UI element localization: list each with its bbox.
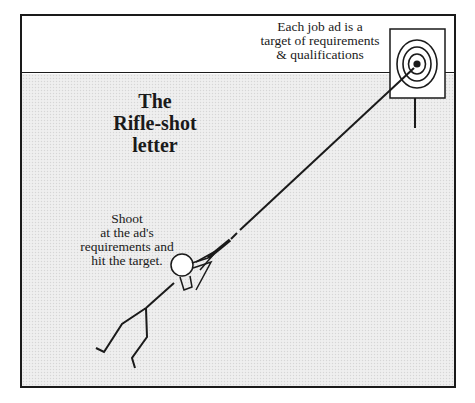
bullet-trajectory-line (231, 68, 414, 239)
bullseye-target-icon (390, 29, 445, 128)
illustration-layer (0, 0, 475, 403)
stick-figure-icon (96, 254, 211, 368)
